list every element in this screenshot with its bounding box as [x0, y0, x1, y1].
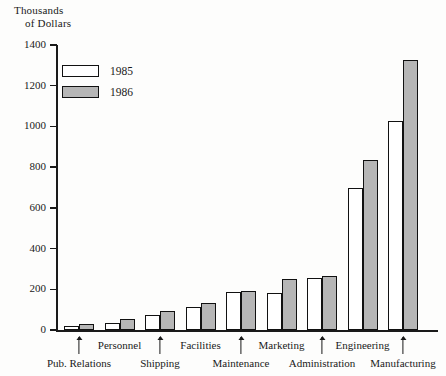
- bar-1986: [322, 276, 337, 330]
- pointer-arrow-icon: [240, 337, 241, 354]
- y-axis-title-line1: Thousands: [14, 4, 63, 16]
- bar-group: [348, 45, 378, 330]
- y-tick-label-1200: 1200: [0, 80, 46, 91]
- y-tick-label-400: 400: [0, 243, 46, 254]
- y-tick-label-1400: 1400: [0, 39, 46, 50]
- x-label-manufacturing: Manufacturing: [370, 357, 435, 369]
- bar-1986: [160, 311, 175, 330]
- bar-1986: [201, 303, 216, 330]
- y-axis-title-line2: of Dollars: [14, 17, 71, 30]
- bar-1985: [105, 323, 120, 330]
- x-label-shipping: Shipping: [140, 357, 180, 369]
- bar-group: [226, 45, 256, 330]
- y-tick-label-800: 800: [0, 161, 46, 172]
- plot-area: [56, 45, 438, 330]
- bar-1985: [307, 278, 322, 330]
- bar-1985: [145, 315, 160, 330]
- x-label-pub-relations: Pub. Relations: [47, 357, 111, 369]
- y-tick-label-200: 200: [0, 283, 46, 294]
- bar-1986: [241, 291, 256, 330]
- bar-1986: [403, 60, 418, 330]
- y-tick-label-0: 0: [0, 324, 46, 335]
- bar-group: [307, 45, 337, 330]
- y-axis-title: Thousands of Dollars: [14, 4, 71, 30]
- bar-1986: [363, 160, 378, 330]
- bar-1985: [64, 326, 79, 330]
- bar-group: [388, 45, 418, 330]
- pointer-arrow-icon: [321, 337, 322, 354]
- y-tick-label-600: 600: [0, 202, 46, 213]
- bar-1985: [226, 292, 241, 330]
- x-label-personnel: Personnel: [98, 339, 141, 351]
- x-label-maintenance: Maintenance: [213, 357, 270, 369]
- cut-off-footer-text: [0, 371, 446, 376]
- bar-1985: [267, 293, 282, 330]
- y-tick-label-1000: 1000: [0, 120, 46, 131]
- bar-group: [105, 45, 135, 330]
- bar-group: [186, 45, 216, 330]
- bar-1986: [79, 324, 94, 330]
- x-label-engineering: Engineering: [336, 339, 390, 351]
- bar-chart: Thousands of Dollars 0200400600800100012…: [0, 0, 446, 376]
- bar-group: [64, 45, 94, 330]
- pointer-arrow-icon: [78, 337, 79, 354]
- bar-1985: [388, 121, 403, 330]
- x-label-facilities: Facilities: [180, 339, 220, 351]
- bar-1986: [282, 279, 297, 330]
- bar-1985: [186, 307, 201, 330]
- bar-group: [267, 45, 297, 330]
- x-label-marketing: Marketing: [259, 339, 305, 351]
- bar-1985: [348, 188, 363, 331]
- x-label-administration: Administration: [289, 357, 356, 369]
- bar-1986: [120, 319, 135, 330]
- pointer-arrow-icon: [402, 337, 403, 354]
- bar-group: [145, 45, 175, 330]
- pointer-arrow-icon: [159, 337, 160, 354]
- x-axis-line: [56, 330, 438, 332]
